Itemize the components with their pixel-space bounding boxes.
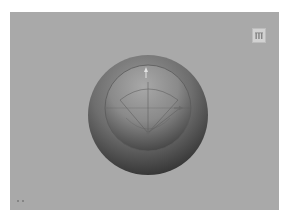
caption-bottom [80, 210, 200, 217]
caption-top [8, 1, 138, 9]
scene-render [10, 12, 279, 210]
pivot-point [147, 132, 150, 135]
viewport-thumbnail-button[interactable] [252, 28, 266, 43]
bars-thumbnail-icon [255, 32, 263, 40]
axis-gizmo-icon [16, 198, 26, 204]
3d-viewport[interactable] [10, 12, 279, 210]
